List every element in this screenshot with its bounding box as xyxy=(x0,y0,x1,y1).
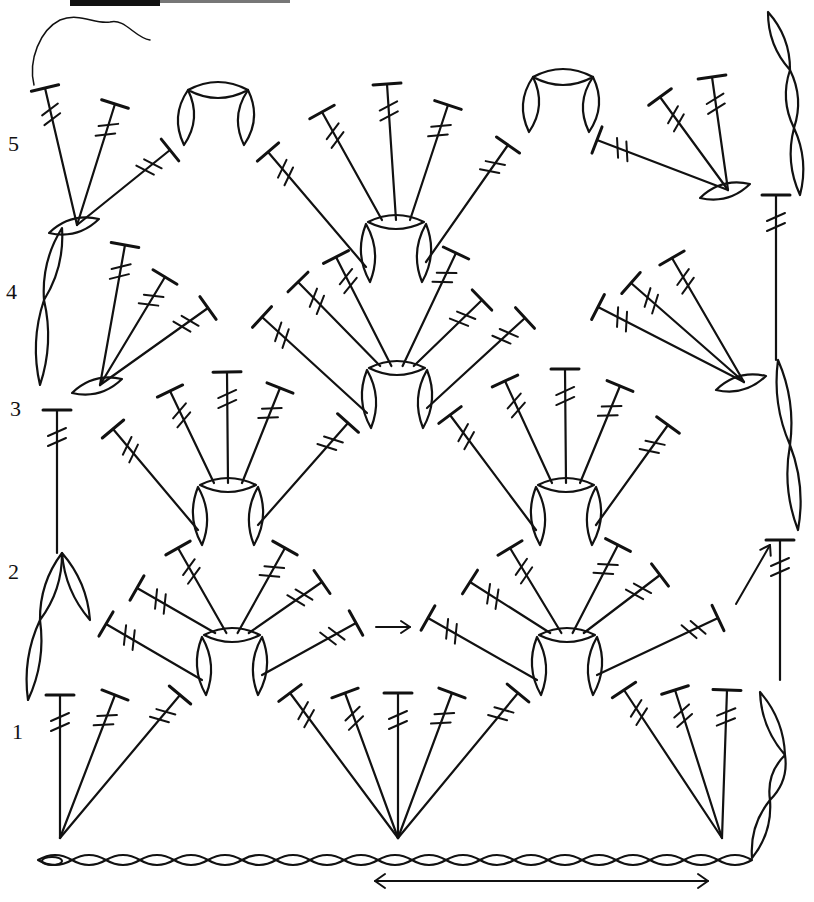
shell-right-chain-icon xyxy=(587,487,601,545)
row-label-4: 4 xyxy=(6,279,17,305)
treble-stitch-icon xyxy=(403,247,469,366)
treble-stitch-icon xyxy=(766,540,794,680)
loose-yarn-end-icon xyxy=(32,17,150,85)
foundation-chain-stitch-icon xyxy=(514,855,548,865)
edge-chain-icon xyxy=(49,217,99,234)
treble-stitch-icon xyxy=(551,369,579,483)
chain-stitch-icon xyxy=(62,553,90,620)
treble-stitch-icon xyxy=(660,251,744,382)
treble-stitch-icon xyxy=(258,414,358,525)
shell-left-chain-icon xyxy=(531,487,545,545)
chain-stitch-icon xyxy=(760,692,785,755)
foundation-chain xyxy=(38,855,752,865)
treble-stitch-icon xyxy=(698,75,728,190)
chain-stitch-icon xyxy=(752,800,771,858)
foundation-chain-stitch-icon xyxy=(208,855,242,865)
treble-stitch-icon xyxy=(384,693,412,838)
foundation-chain-stitch-icon xyxy=(412,855,446,865)
direction-arrow-icon xyxy=(736,545,770,604)
shell-left-chain-icon xyxy=(197,637,211,695)
treble-stitch-icon xyxy=(130,576,215,633)
foundation-chain-stitch-icon xyxy=(378,855,412,865)
treble-stitch-icon xyxy=(77,139,179,225)
shell-right-chain-icon xyxy=(588,637,602,695)
shell-right-chain-icon xyxy=(417,224,431,282)
treble-stitch-icon xyxy=(60,690,128,838)
treble-stitch-icon xyxy=(584,564,669,633)
treble-stitch-icon xyxy=(60,686,191,838)
treble-stitch-icon xyxy=(580,381,633,483)
foundation-chain-stitch-icon xyxy=(242,855,276,865)
treble-stitch-icon xyxy=(398,684,529,838)
chain-stitch-icon xyxy=(787,445,800,530)
arch-right-chain-icon xyxy=(583,77,599,132)
chain-stitch-icon xyxy=(40,553,62,620)
chain-stitch-icon xyxy=(36,300,48,385)
edge-chain-icon xyxy=(72,377,122,394)
chain-stitch-icon xyxy=(791,128,804,195)
treble-stitch-icon xyxy=(31,85,77,225)
treble-stitch-icon xyxy=(612,682,722,838)
treble-stitch-icon xyxy=(102,420,198,530)
treble-stitch-icon xyxy=(427,308,534,408)
crochet-chart xyxy=(0,0,814,902)
treble-stitch-icon xyxy=(166,541,227,633)
row-label-5: 5 xyxy=(8,131,19,157)
treble-stitch-icon xyxy=(77,100,128,225)
shell-right-chain-icon xyxy=(249,487,263,545)
treble-stitch-icon xyxy=(157,385,214,483)
treble-stitch-icon xyxy=(492,375,552,483)
foundation-chain-stitch-icon xyxy=(446,855,480,865)
foundation-chain-stitch-icon xyxy=(480,855,514,865)
treble-stitch-icon xyxy=(100,243,139,385)
arch-left-chain-icon xyxy=(523,77,539,132)
treble-stitch-icon xyxy=(249,571,330,633)
treble-stitch-icon xyxy=(253,307,367,413)
treble-stitch-icon xyxy=(410,101,461,220)
foundation-chain-stitch-icon xyxy=(684,855,718,865)
shell-right-chain-icon xyxy=(253,637,267,695)
treble-stitch-icon xyxy=(100,297,216,385)
treble-stitch-icon xyxy=(43,410,71,553)
treble-stitch-icon xyxy=(99,612,202,680)
treble-stitch-icon xyxy=(213,372,241,483)
chain-stitch-icon xyxy=(777,360,792,445)
chain-stitch-icon xyxy=(768,12,790,70)
treble-stitch-icon xyxy=(421,606,537,680)
treble-stitch-icon xyxy=(324,251,392,366)
shell-left-chain-icon xyxy=(193,487,207,545)
foundation-chain-stitch-icon xyxy=(276,855,310,865)
foundation-chain-stitch-icon xyxy=(174,855,208,865)
shell-left-chain-icon xyxy=(362,370,376,428)
treble-stitch-icon xyxy=(597,605,724,675)
treble-stitch-icon xyxy=(592,127,728,190)
foundation-chain-stitch-icon xyxy=(616,855,650,865)
treble-stitch-icon xyxy=(262,611,363,675)
row-label-1: 1 xyxy=(12,719,23,745)
treble-stitch-icon xyxy=(713,690,741,838)
chain-stitch-icon xyxy=(27,620,42,700)
shell-left-chain-icon xyxy=(361,224,375,282)
treble-stitch-icon xyxy=(373,83,401,220)
treble-stitch-icon xyxy=(426,137,519,262)
foundation-chain-stitch-icon xyxy=(106,855,140,865)
stitch-layer xyxy=(31,75,794,838)
arch-left-chain-icon xyxy=(178,90,194,145)
treble-stitch-icon xyxy=(414,290,492,366)
arch-right-chain-icon xyxy=(238,90,254,145)
treble-stitch-icon xyxy=(439,407,536,530)
arch-top-chain-icon xyxy=(188,82,248,98)
foundation-chain-stitch-icon xyxy=(72,855,106,865)
arrow-layer xyxy=(375,545,771,888)
foundation-chain-stitch-icon xyxy=(582,855,616,865)
row-label-3: 3 xyxy=(10,396,21,422)
shell-right-chain-icon xyxy=(418,370,432,428)
chain-stitch-icon xyxy=(786,70,798,128)
treble-stitch-icon xyxy=(462,570,550,633)
chain-layer xyxy=(27,12,804,858)
row-label-2: 2 xyxy=(8,559,19,585)
foundation-chain-stitch-icon xyxy=(718,855,752,865)
treble-stitch-icon xyxy=(622,272,744,382)
foundation-chain-stitch-icon xyxy=(140,855,174,865)
arch-top-chain-icon xyxy=(533,69,593,85)
